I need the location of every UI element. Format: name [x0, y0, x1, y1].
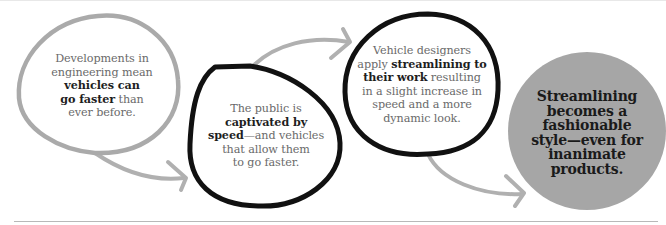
step-2-line: to go faster.: [196, 156, 336, 170]
final-circle-text: Streamlining becomes a fashionable style…: [516, 89, 658, 177]
step-3-line: Vehicle designers: [350, 44, 494, 58]
final-line: becomes a: [516, 104, 658, 119]
step-3-line: apply streamlining to: [350, 58, 494, 72]
arrow-step3-to-step4: [428, 154, 524, 206]
step-3-line: in a slight increase in: [350, 85, 494, 99]
step-2-line: captivated by: [196, 116, 336, 130]
bubble-step-3-text: Vehicle designers apply streamlining to …: [350, 44, 494, 126]
step-2-line: The public is: [196, 102, 336, 116]
step-1-line: engineering mean: [32, 66, 172, 80]
step-3-line: speed and a more: [350, 98, 494, 112]
final-line: style—even for: [516, 133, 658, 148]
step-2-line: speed—and vehicles: [196, 129, 336, 143]
step-3-line: dynamic look.: [350, 112, 494, 126]
step-1-line: go faster than: [32, 93, 172, 107]
final-line: Streamlining: [516, 89, 658, 104]
arrow-step2-to-step3: [254, 29, 350, 65]
step-1-line: vehicles can: [32, 79, 172, 93]
final-line: fashionable: [516, 118, 658, 133]
arrow-step1-to-step2: [95, 153, 186, 190]
step-1-line: Developments in: [32, 52, 172, 66]
final-line: inanimate: [516, 147, 658, 162]
final-line: products.: [516, 162, 658, 177]
bubble-step-2-text: The public is captivated by speed—and ve…: [196, 102, 336, 170]
bubble-step-1-text: Developments in engineering mean vehicle…: [32, 52, 172, 120]
step-2-line: that allow them: [196, 143, 336, 157]
bottom-divider: [14, 221, 658, 222]
step-1-line: ever before.: [32, 106, 172, 120]
step-3-line: their work resulting: [350, 71, 494, 85]
